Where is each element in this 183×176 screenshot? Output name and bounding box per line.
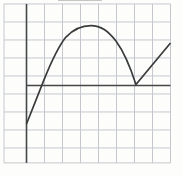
screenshot-root: [0, 0, 183, 176]
function-graph-figure: [0, 0, 183, 176]
graph-canvas: [0, 0, 183, 176]
